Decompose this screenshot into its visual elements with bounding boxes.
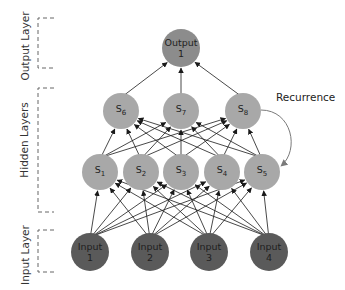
layer-label-input: Input Layer	[19, 220, 31, 290]
layer-label-output: Output Layer	[19, 11, 31, 81]
node-label-s4: S4	[217, 164, 228, 180]
recurrence-label: Recurrence	[276, 91, 335, 103]
node-label-out1: Output1	[165, 37, 198, 59]
node-label-s1: S1	[95, 164, 106, 180]
connection-edges	[90, 62, 268, 236]
nodes	[71, 29, 288, 271]
neural-network-diagram: Output Layer Hidden Layers Input Layer R…	[0, 0, 345, 290]
node-label-in1: Input1	[78, 241, 103, 263]
node-label-s8: S8	[238, 103, 249, 119]
node-label-s6: S6	[116, 103, 127, 119]
node-label-s3: S3	[176, 164, 187, 180]
node-label-in2: Input2	[138, 241, 163, 263]
node-label-s7: S7	[176, 103, 187, 119]
node-label-in3: Input3	[197, 241, 222, 263]
node-label-s5: S5	[257, 164, 268, 180]
layer-brackets	[38, 18, 54, 272]
layer-label-hidden: Hidden Layers	[18, 100, 30, 180]
node-label-s2: S2	[136, 164, 147, 180]
node-label-in4: Input4	[257, 241, 282, 263]
